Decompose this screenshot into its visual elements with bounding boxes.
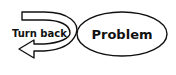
turn-back-label: Turn back [12, 28, 67, 39]
diagram-canvas: Turn back Problem [0, 0, 176, 75]
problem-label: Problem [92, 27, 153, 42]
